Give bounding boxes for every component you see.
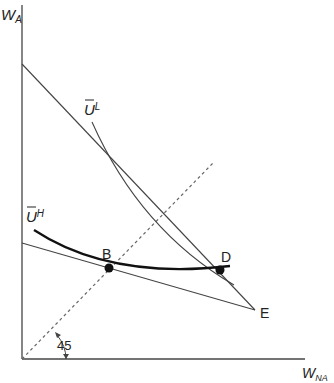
- point-b: [105, 264, 114, 273]
- indifference-curve-low: [92, 122, 234, 285]
- point-d: [216, 266, 225, 275]
- point-b-label: B: [102, 246, 111, 262]
- angle-arrow-bottom: [63, 354, 69, 359]
- diagram-svg: WA WNA 45 UL UH B D E: [0, 0, 334, 383]
- curve-label-high: UH: [26, 208, 45, 225]
- diagram-canvas: WA WNA 45 UL UH B D E: [0, 0, 334, 383]
- x-axis-label: WNA: [302, 365, 328, 383]
- angle-label: 45: [57, 338, 71, 353]
- point-d-label: D: [221, 249, 231, 265]
- point-e-label: E: [260, 305, 269, 321]
- forty-five-degree-line: [22, 163, 213, 359]
- y-axis-label: WA: [1, 6, 22, 25]
- curve-label-low: UL: [84, 101, 100, 118]
